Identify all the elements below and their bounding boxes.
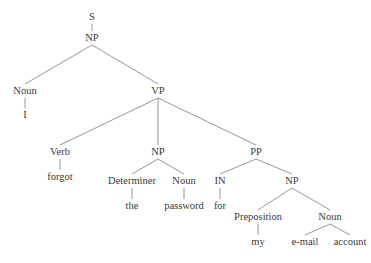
- tree-node-label: the: [126, 200, 139, 211]
- tree-node-label: Determiner: [108, 175, 156, 186]
- tree-node-label: NP: [285, 175, 299, 186]
- tree-edge: [305, 224, 330, 235]
- tree-edge: [25, 45, 92, 84]
- tree-node-label: NP: [85, 32, 99, 43]
- tree-node-label: NP: [151, 146, 165, 157]
- tree-edge: [330, 224, 350, 235]
- tree-edge: [256, 159, 292, 174]
- tree-edge: [60, 98, 158, 145]
- tree-edge: [92, 45, 158, 84]
- tree-edge: [158, 98, 256, 145]
- tree-edge: [158, 159, 184, 174]
- tree-node-label: account: [334, 236, 367, 247]
- tree-node-label: Verb: [50, 146, 70, 157]
- tree-node-label: forgot: [47, 171, 73, 182]
- tree-node-label: I: [23, 109, 27, 120]
- tree-node-label: password: [164, 200, 204, 211]
- tree-node-label: Noun: [13, 85, 37, 96]
- tree-edge: [258, 188, 292, 210]
- tree-edge: [292, 188, 330, 210]
- tree-node-label: PP: [250, 146, 262, 157]
- parse-tree-diagram: SNPNounIVPVerbforgotNPDeterminertheNounp…: [0, 0, 371, 263]
- tree-node-label: VP: [151, 85, 165, 96]
- tree-edge: [220, 159, 256, 174]
- tree-node-label: IN: [214, 175, 225, 186]
- tree-node-label: Noun: [318, 211, 342, 222]
- tree-node-label: Noun: [172, 175, 196, 186]
- tree-node-label: Preposition: [234, 211, 283, 222]
- tree-edge: [132, 159, 158, 174]
- tree-node-label: e-mail: [292, 236, 319, 247]
- tree-node-label: for: [214, 200, 227, 211]
- tree-node-label: my: [251, 236, 265, 247]
- tree-nodes: SNPNounIVPVerbforgotNPDeterminertheNounp…: [13, 11, 366, 247]
- tree-node-label: S: [89, 11, 95, 22]
